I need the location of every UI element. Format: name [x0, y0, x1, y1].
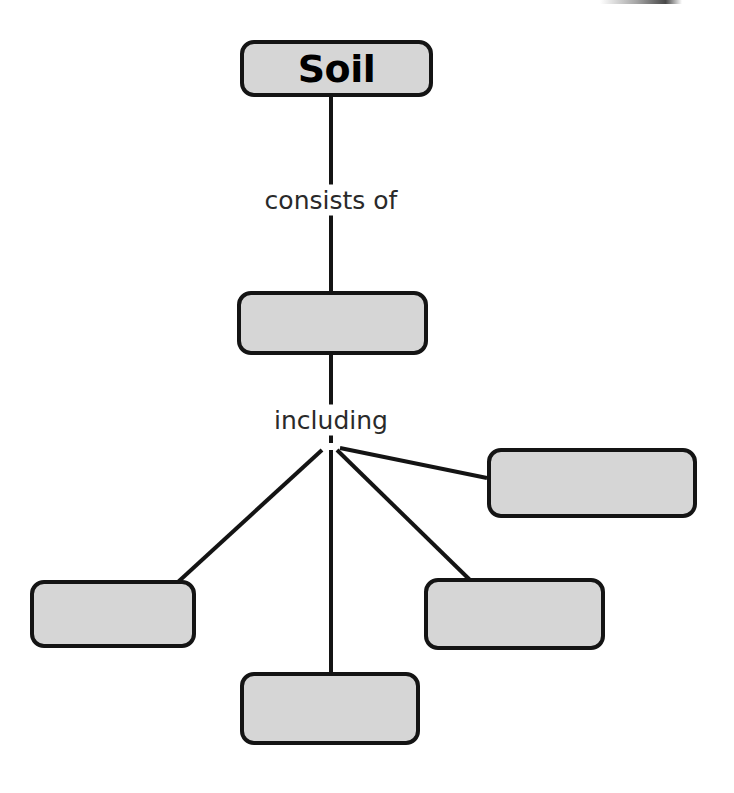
concept-box-item-bottom-blank[interactable] — [240, 672, 420, 745]
concept-map-diagram: Soil consists of including — [0, 0, 734, 793]
connector-label-including: including — [267, 405, 395, 436]
concept-box-item-center-right-blank[interactable] — [424, 578, 605, 650]
concept-box-soil[interactable]: Soil — [240, 40, 433, 97]
concept-box-soil-label: Soil — [298, 50, 376, 88]
concept-box-item-left-blank[interactable] — [30, 580, 196, 648]
edge-branch-to-left-box — [178, 450, 322, 582]
concept-box-component-blank[interactable] — [237, 291, 428, 355]
scan-edge-artifact — [600, 0, 682, 4]
connector-label-consists-of: consists of — [258, 185, 405, 216]
concept-box-item-right-blank[interactable] — [487, 448, 697, 518]
